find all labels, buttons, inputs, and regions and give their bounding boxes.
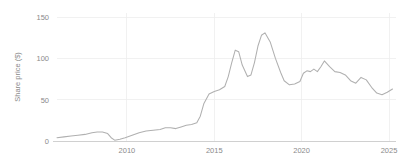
x-tick-label: 2015 bbox=[206, 146, 223, 155]
chart-canvas: 050100150 2010201520202025 Share price (… bbox=[0, 0, 402, 166]
y-tick-label: 0 bbox=[45, 137, 49, 146]
y-axis-tick-labels: 050100150 bbox=[36, 13, 49, 146]
x-tick-label: 2010 bbox=[119, 146, 136, 155]
share-price-line bbox=[57, 33, 393, 140]
x-tick-label: 2020 bbox=[293, 146, 310, 155]
share-price-chart: 050100150 2010201520202025 Share price (… bbox=[0, 0, 402, 166]
x-axis-tick-labels: 2010201520202025 bbox=[119, 146, 398, 155]
y-tick-label: 100 bbox=[36, 54, 49, 63]
y-tick-label: 150 bbox=[36, 13, 49, 22]
x-tick-label: 2025 bbox=[381, 146, 398, 155]
y-tick-label: 50 bbox=[41, 96, 49, 105]
y-axis-title: Share price ($) bbox=[13, 52, 22, 102]
gridlines bbox=[57, 13, 396, 141]
